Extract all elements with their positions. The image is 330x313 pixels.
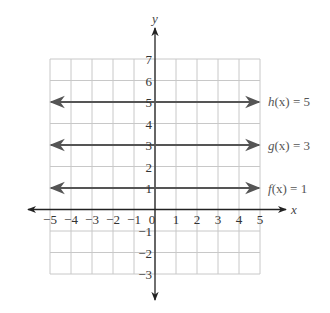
g-label: g(x) = 3 (268, 138, 310, 153)
chart: −5−4−3−2−10123457654321−1−2−3 x y h(x) =… (0, 0, 330, 313)
x-tick-label: 4 (236, 212, 243, 227)
x-tick-label: 3 (215, 212, 222, 227)
y-tick-label: 5 (146, 95, 153, 110)
x-tick-label: −5 (43, 212, 57, 227)
x-axis-label: x (290, 202, 297, 217)
x-tick-label: 2 (194, 212, 201, 227)
y-tick-label: 2 (146, 160, 153, 175)
y-tick-label: 1 (146, 181, 153, 196)
axes (28, 28, 286, 300)
h-label: h(x) = 5 (268, 94, 310, 109)
x-tick-label: −2 (106, 212, 120, 227)
y-tick-label: 3 (146, 138, 153, 153)
x-tick-label: 5 (257, 212, 264, 227)
y-tick-label: −3 (138, 267, 152, 282)
x-tick-label: 1 (173, 212, 180, 227)
x-tick-label: −4 (64, 212, 78, 227)
y-tick-label: −1 (138, 224, 152, 239)
y-tick-label: 6 (146, 74, 153, 89)
y-axis-label: y (150, 11, 158, 26)
x-tick-label: −3 (85, 212, 99, 227)
y-tick-label: 7 (146, 52, 153, 67)
f-label: f(x) = 1 (268, 181, 307, 196)
y-tick-label: −2 (138, 246, 152, 261)
y-tick-label: 4 (146, 117, 153, 132)
